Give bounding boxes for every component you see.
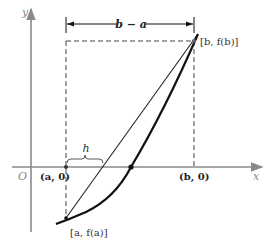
secant-diagram: b − a h y x O (a, 0) (b, 0) [a, f(a)] [b… [0, 0, 270, 246]
b-axis-label: (b, 0) [179, 171, 209, 183]
width-label: b − a [115, 18, 147, 31]
secant-chord [66, 34, 198, 218]
a-axis-label: (a, 0) [40, 171, 70, 183]
point-a-axis [64, 165, 68, 169]
fa-label: [a, f(a)] [70, 227, 108, 238]
point-fb [192, 39, 196, 43]
x-axis-label: x [253, 170, 260, 183]
fb-label: [b, f(b)] [200, 36, 239, 47]
point-fa [64, 216, 68, 220]
h-brace [67, 155, 103, 163]
root-point [128, 164, 133, 169]
function-curve [56, 34, 198, 224]
h-label: h [82, 142, 89, 155]
origin-label: O [18, 170, 27, 183]
y-axis-label: y [21, 6, 29, 19]
